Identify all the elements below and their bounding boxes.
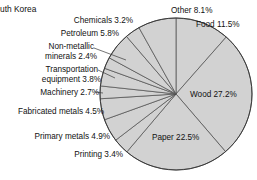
slice-label-machinery: Machinery 2.7% xyxy=(40,88,99,97)
slice-label-food: Food 11.5% xyxy=(196,20,240,29)
slice-label-chemicals: Chemicals 3.2% xyxy=(74,16,133,25)
chart-title: uth Korea xyxy=(0,4,37,14)
slice-label-fabricated-metals: Fabricated metals 4.5% xyxy=(18,107,104,116)
slice-label-nonmetallic-line2: minerals 2.4% xyxy=(45,52,97,61)
slice-label-transportation-line1: Transportation xyxy=(46,65,99,74)
slice-label-paper: Paper 22.5% xyxy=(152,133,199,142)
slice-label-wood: Wood 27.2% xyxy=(190,90,237,99)
slice-label-nonmetallic-line1: Non-metallic xyxy=(49,42,95,51)
pie-chart-figure: uth Korea Other 8.1% Food 11.5% Wood 27.… xyxy=(0,0,257,180)
slice-label-printing: Printing 3.4% xyxy=(74,150,123,159)
slice-label-other: Other 8.1% xyxy=(171,6,212,15)
pie-chart-svg: uth Korea Other 8.1% Food 11.5% Wood 27.… xyxy=(0,0,257,180)
slice-label-petroleum: Petroleum 5.8% xyxy=(61,29,119,38)
slice-label-transportation-line2: equipment 3.8% xyxy=(42,75,101,84)
slice-label-primary-metals: Primary metals 4.9% xyxy=(34,132,110,141)
